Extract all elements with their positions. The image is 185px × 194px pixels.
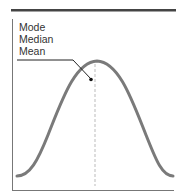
label-mean: Mean [19,45,45,57]
label-median: Median [19,33,54,45]
top-bar [11,9,176,12]
leader-dot [89,78,93,82]
label-mode: Mode [19,21,45,33]
bell-curve [17,61,173,176]
distribution-diagram: Mode Median Mean [0,0,185,194]
